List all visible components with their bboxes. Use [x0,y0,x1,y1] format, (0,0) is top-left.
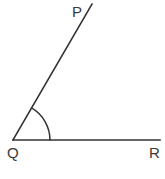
angle-arc-marker [32,108,51,140]
ray-qp-line [13,4,92,140]
point-label-r: R [149,144,160,161]
angle-diagram-svg: P Q R [0,0,165,179]
angle-diagram-canvas: P Q R [0,0,165,179]
point-label-p: P [72,3,82,20]
point-label-q: Q [7,144,19,161]
